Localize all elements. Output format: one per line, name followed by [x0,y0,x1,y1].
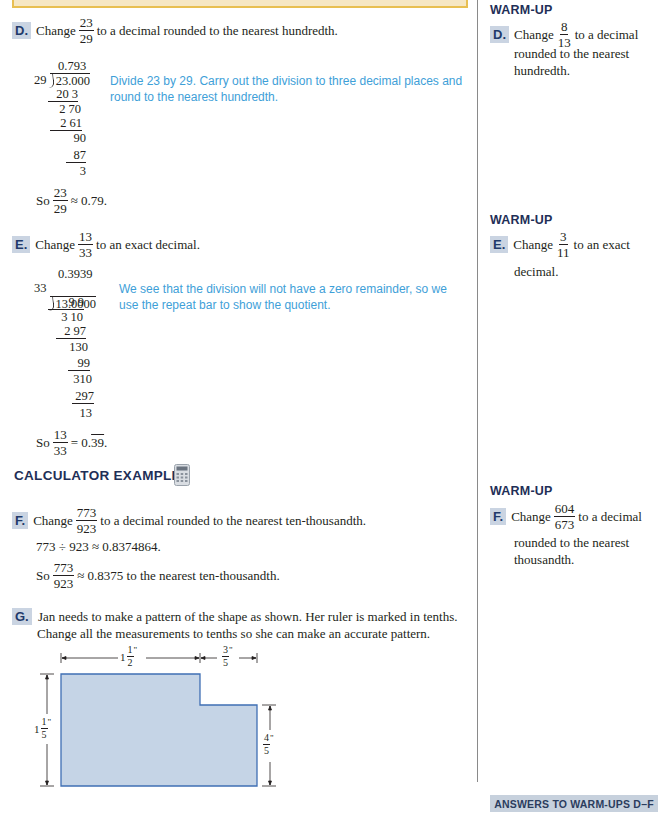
example-f-calc-line: 773 ÷ 923 ≈ 0.8374864. [36,539,161,555]
fraction: 311 [556,230,571,259]
warmup-e-badge: E. [490,236,508,253]
example-e-result: So 13 33 = 0.39. [36,428,107,457]
example-d-badge: D. [12,22,31,39]
dim-top-left: 1 12 " [120,645,137,668]
column-divider [477,0,478,782]
answers-to-warmups-label: ANSWERS TO WARM-UPS D–F [490,795,658,812]
fraction: 773 923 [53,561,75,590]
example-g-prompt: G. Jan needs to make a pattern of the sh… [12,608,457,642]
repeat-bar-digits: 39 [91,435,104,451]
calculator-icon [174,464,190,486]
warmup-d-prompt: D. Change 813 to a decimal rounded to th… [490,20,638,79]
example-d-prompt: D. Change 23 29 to a decimal rounded to … [12,16,338,45]
example-d-note: Divide 23 by 29. Carry out the division … [110,73,470,105]
fraction: 604673 [554,502,576,531]
example-e-badge: E. [12,236,30,253]
example-e-note: We see that the division will not have a… [119,281,469,313]
previous-section-box [12,0,468,8]
calculator-example-heading: CALCULATOR EXAMPLE: [14,468,186,483]
fraction: 13 33 [78,230,93,259]
fraction: 773 923 [76,506,98,535]
warmup-e-title: WARM-UP [490,213,553,227]
warmup-d-title: WARM-UP [490,3,553,17]
example-f-prompt: F. Change 773 923 to a decimal rounded t… [12,506,366,535]
warmup-f-badge: F. [490,508,506,525]
example-f-result: So 773 923 ≈ 0.8375 to the nearest ten-t… [36,561,280,590]
example-g-badge: G. [12,608,32,625]
warmup-f-prompt: F. Change 604673 to a decimal rounded to… [490,502,642,568]
fraction: 13 33 [53,428,68,457]
dim-right: 45 " [263,733,274,756]
fraction: 23 29 [53,186,68,215]
warmup-f-title: WARM-UP [490,484,553,498]
warmup-e-prompt: E. Change 311 to an exact decimal. [490,230,630,280]
example-e-prompt: E. Change 13 33 to an exact decimal. [12,230,200,259]
example-f-badge: F. [12,512,28,529]
fraction: 23 29 [79,16,94,45]
dim-top-right: 35 " [222,645,233,668]
warmup-d-badge: D. [490,26,509,43]
l-shape-figure: 1 12 " 35 " 1 15 " 45 " [0,640,300,814]
dim-left: 1 15 " [34,717,51,740]
example-d-result: So 23 29 ≈ 0.79. [36,186,107,215]
